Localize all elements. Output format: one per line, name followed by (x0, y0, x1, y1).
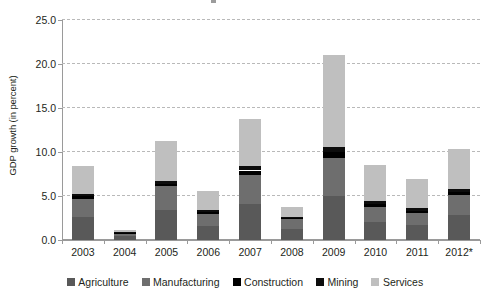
bar-group (355, 20, 397, 240)
bar-segment-construction (72, 196, 94, 198)
bar-group (396, 20, 438, 240)
bar-group (438, 20, 480, 240)
legend-label: Manufacturing (153, 276, 220, 288)
bar-segment-construction (323, 152, 345, 158)
bar-segment-mining (155, 181, 177, 184)
y-tick-mark (58, 64, 62, 65)
bar-segment-manufacturing (114, 234, 136, 237)
y-axis-title-label: GDP growth (in percent) (8, 75, 19, 175)
x-tick-mark (62, 240, 63, 244)
bar-segment-services (72, 166, 94, 194)
legend-item-agriculture[interactable]: Agriculture (67, 276, 129, 288)
bar-group (104, 20, 146, 240)
bar-segment-manufacturing (323, 158, 345, 196)
legend-item-manufacturing[interactable]: Manufacturing (142, 276, 220, 288)
bar-segment-services (155, 141, 177, 181)
bar-segment-construction (239, 171, 261, 175)
legend-item-mining[interactable]: Mining (316, 276, 358, 288)
legend-item-services[interactable]: Services (371, 276, 423, 288)
bar-segment-services (281, 207, 303, 216)
y-axis-title: GDP growth (in percent) (2, 0, 24, 250)
bar-segment-construction (114, 233, 136, 234)
y-tick-label: 0.0 (12, 234, 56, 246)
bar-segment-mining (281, 217, 303, 218)
bar-segment-agriculture (155, 210, 177, 240)
legend-label: Mining (328, 276, 359, 288)
x-tick-mark (146, 240, 147, 244)
x-tick-mark (104, 240, 105, 244)
bar-group (146, 20, 188, 240)
y-tick-mark (58, 20, 62, 21)
x-tick-mark (480, 240, 481, 244)
bar-segment-construction (155, 184, 177, 187)
bar-segment-construction (448, 192, 470, 195)
legend-swatch-mining-icon (316, 278, 324, 286)
bar-segment-agriculture (114, 236, 136, 240)
x-tick-mark (187, 240, 188, 244)
bar-segment-construction (197, 212, 219, 214)
chart-legend: AgricultureManufacturingConstructionMini… (0, 276, 490, 288)
bar-group (187, 20, 229, 240)
bar-segment-services (448, 149, 470, 189)
bar-segment-agriculture (281, 229, 303, 240)
bar-segment-mining (72, 194, 94, 196)
y-tick-label: 15.0 (12, 102, 56, 114)
bar-segment-mining (448, 189, 470, 192)
bar-segment-services (197, 191, 219, 210)
x-tick-mark (355, 240, 356, 244)
y-tick-label: 10.0 (12, 146, 56, 158)
bar-segment-construction (364, 204, 386, 207)
bar-group (313, 20, 355, 240)
bar-segment-agriculture (239, 204, 261, 240)
bar-segment-manufacturing (364, 207, 386, 222)
x-tick-mark (271, 240, 272, 244)
x-tick-label-2012est: 2012* (431, 246, 487, 258)
x-tick-mark (229, 240, 230, 244)
plot-area (62, 20, 480, 240)
y-tick-label: 25.0 (12, 14, 56, 26)
bar-segment-manufacturing (72, 199, 94, 217)
bar-segment-services (239, 119, 261, 166)
x-tick-mark (396, 240, 397, 244)
bar-group (229, 20, 271, 240)
bar-segment-manufacturing (155, 186, 177, 210)
bar-segment-agriculture (448, 215, 470, 240)
bar-segment-mining (323, 147, 345, 152)
bar-segment-manufacturing (281, 219, 303, 229)
bar-segment-agriculture (197, 226, 219, 240)
legend-swatch-agriculture-icon (67, 278, 75, 286)
bars-layer (62, 20, 480, 240)
legend-swatch-manufacturing-icon (142, 278, 150, 286)
bar-segment-mining (239, 166, 261, 170)
y-tick-mark (58, 152, 62, 153)
x-tick-mark (313, 240, 314, 244)
legend-swatch-construction-icon (233, 278, 241, 286)
bar-segment-services (364, 165, 386, 201)
bar-segment-services (323, 55, 345, 147)
y-tick-mark (58, 108, 62, 109)
bar-segment-agriculture (406, 225, 428, 240)
legend-label: Services (383, 276, 423, 288)
bar-segment-construction (406, 211, 428, 213)
bar-segment-mining (364, 201, 386, 204)
y-tick-mark (58, 196, 62, 197)
x-tick-mark (438, 240, 439, 244)
top-edge-artifact (211, 0, 216, 3)
bar-segment-agriculture (323, 196, 345, 240)
bar-segment-construction (281, 218, 303, 219)
y-tick-label: 5.0 (12, 190, 56, 202)
bar-group (62, 20, 104, 240)
y-tick-label: 20.0 (12, 58, 56, 70)
bar-segment-mining (114, 232, 136, 233)
bar-segment-manufacturing (197, 214, 219, 225)
bar-group (271, 20, 313, 240)
bar-segment-agriculture (72, 217, 94, 240)
gdp-growth-stacked-bar-chart: GDP growth (in percent) 0.05.010.015.020… (0, 0, 490, 308)
bar-segment-mining (197, 210, 219, 212)
bar-segment-manufacturing (239, 175, 261, 204)
legend-item-construction[interactable]: Construction (233, 276, 303, 288)
bar-segment-agriculture (364, 222, 386, 240)
legend-swatch-services-icon (371, 278, 379, 286)
bar-segment-manufacturing (448, 195, 470, 215)
legend-label: Agriculture (78, 276, 128, 288)
